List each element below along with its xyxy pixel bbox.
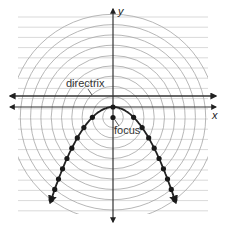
- parabola-diagram: directrix focus y x: [0, 0, 226, 232]
- parabola-point: [131, 115, 136, 120]
- parabola-point: [56, 177, 61, 182]
- parabola-point: [52, 187, 57, 192]
- parabola-point: [146, 135, 151, 140]
- parabola-point: [156, 156, 161, 161]
- parabola-point: [81, 125, 86, 130]
- parabola-point: [161, 166, 166, 171]
- parabola-point: [75, 135, 80, 140]
- focus-point: [110, 115, 115, 120]
- parabola-point: [140, 125, 145, 130]
- directrix-pointer: [88, 89, 92, 95]
- parabola-point: [152, 146, 157, 151]
- parabola-point: [169, 187, 174, 192]
- parabola-point: [69, 146, 74, 151]
- parabola-point: [110, 104, 115, 109]
- parabola-point: [60, 166, 65, 171]
- focus-label: focus: [114, 124, 141, 136]
- parabola-point: [64, 156, 69, 161]
- directrix-label: directrix: [66, 77, 105, 89]
- parabola-point: [172, 197, 177, 202]
- parabola-point: [49, 197, 54, 202]
- x-axis-label: x: [211, 109, 218, 121]
- parabola-point: [165, 177, 170, 182]
- parabola-point: [90, 115, 95, 120]
